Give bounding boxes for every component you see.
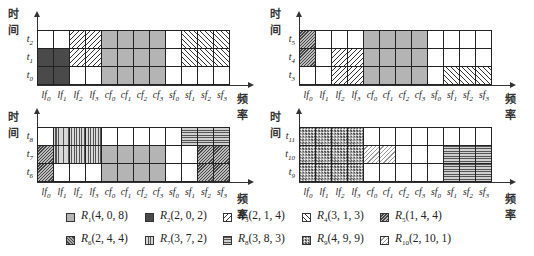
grid-cell-r1 — [396, 31, 412, 49]
x-axis-line — [37, 182, 249, 183]
grid-cell-white — [444, 31, 460, 49]
legend-swatch-icon — [145, 236, 154, 245]
grid-cell-white — [38, 128, 54, 146]
grid-cell-r8 — [444, 146, 460, 164]
grid-cell-white — [460, 49, 476, 67]
label-subscript: 2 — [79, 192, 83, 200]
label-subscript: 0 — [112, 95, 116, 103]
grid-cell-white — [316, 31, 332, 49]
grid-cell-r4 — [182, 49, 198, 67]
label-subscript: 1 — [30, 57, 34, 65]
frequency-label: lf0 — [300, 187, 316, 200]
label-subscript: 2 — [469, 192, 473, 200]
label-subscript: 0 — [30, 75, 34, 83]
grid-cell-white — [150, 128, 166, 146]
frequency-label: sf0 — [428, 187, 444, 200]
label-subscript: 1 — [325, 95, 329, 103]
grid-cell-white — [380, 164, 396, 182]
grid-cell-r1 — [380, 67, 396, 85]
label-subscript: 3 — [160, 192, 164, 200]
grid-cell-r3 — [86, 49, 102, 67]
grid-cell-r1 — [102, 31, 118, 49]
grid-cell-white — [38, 31, 54, 49]
label-subscript: 0 — [175, 192, 179, 200]
time-slot-label: t7 — [19, 145, 33, 163]
label-subscript: 0 — [47, 192, 51, 200]
label-base: cf — [153, 187, 160, 197]
grid-cell-r9 — [348, 128, 364, 146]
legend-item-r10: R10(2, 10, 1) — [380, 232, 451, 248]
label-subscript: 0 — [437, 192, 441, 200]
frequency-label: cf1 — [380, 90, 396, 103]
label-subscript: 3 — [485, 192, 489, 200]
grid-cell-white — [166, 67, 182, 85]
legend-name: R — [238, 232, 245, 244]
label-base: cf — [153, 90, 160, 100]
grid-cell-r1 — [364, 67, 380, 85]
grid-cell-r5 — [300, 49, 316, 67]
grid-cell-r4 — [198, 49, 214, 67]
legend-item-r6: R6(2, 4, 4) — [66, 232, 128, 248]
time-slot-label: t4 — [281, 48, 295, 66]
grid-cell-r8 — [476, 164, 492, 182]
grid-cell-r9 — [316, 128, 332, 146]
grid-cell-white — [102, 128, 118, 146]
label-subscript: 2 — [207, 95, 211, 103]
y-axis-label: 时间 — [8, 108, 19, 140]
grid-cell-r2 — [54, 49, 70, 67]
label-subscript: 3 — [422, 192, 426, 200]
label-subscript: 3 — [95, 95, 99, 103]
legend-name: R — [317, 209, 324, 221]
legend-params: (3, 1, 3) — [328, 209, 364, 221]
frequency-label: lf0 — [300, 90, 316, 103]
legend-item-r3: R3(2, 1, 4) — [223, 209, 285, 225]
legend-swatch-icon — [66, 213, 75, 222]
grid-cell-white — [364, 164, 380, 182]
grid-cell-r1 — [412, 31, 428, 49]
legend-text: R10(2, 10, 1) — [395, 232, 451, 247]
legend-params: (2, 10, 1) — [409, 232, 451, 244]
legend-item-r2: R2(2, 0, 2) — [145, 209, 207, 225]
grid-cell-white — [396, 128, 412, 146]
grid-cell-white — [166, 31, 182, 49]
legend-swatch-icon — [302, 213, 311, 222]
x-axis-line — [299, 182, 511, 183]
label-base: cf — [399, 187, 406, 197]
legend-name: R — [81, 232, 88, 244]
grid-cell-r1 — [118, 164, 134, 182]
label-base: cf — [415, 187, 422, 197]
label-subscript: 11 — [289, 136, 295, 144]
frequency-label: sf2 — [460, 90, 476, 103]
label-subscript: 8 — [30, 136, 34, 144]
legend-name: R — [160, 209, 167, 221]
label-base: cf — [367, 187, 374, 197]
grid-cell-r1 — [134, 67, 150, 85]
frequency-label: lf1 — [316, 90, 332, 103]
grid-cell-white — [182, 67, 198, 85]
frequency-label: lf3 — [348, 187, 364, 200]
frequency-label: cf2 — [134, 187, 150, 200]
label-subscript: 10 — [288, 154, 295, 162]
label-subscript: 5 — [292, 39, 296, 47]
legend-swatch-icon — [380, 236, 389, 245]
grid-cell-r1 — [118, 49, 134, 67]
time-slot-labels: t8t7t6 — [19, 127, 33, 181]
frequency-labels: lf0lf1lf2lf3cf0cf1cf2cf3sf0sf1sf2sf3 — [300, 187, 492, 200]
x-axis-label: 频率 — [505, 90, 516, 122]
legend-text: R2(2, 0, 2) — [160, 209, 207, 224]
time-slot-label: t8 — [19, 127, 33, 145]
frequency-label: sf2 — [198, 90, 214, 103]
legend-text: R4(3, 1, 3) — [317, 209, 364, 224]
label-subscript: 9 — [292, 172, 296, 180]
legend-text: R5(1, 4, 4) — [395, 209, 442, 224]
grid-cell-r3 — [348, 67, 364, 85]
grid-cell-r9 — [300, 164, 316, 182]
legend-name: R — [395, 232, 402, 244]
grid-cell-r1 — [134, 146, 150, 164]
grid-cell-white — [396, 164, 412, 182]
grid-cell-white — [166, 164, 182, 182]
grid-cell-r4 — [214, 49, 230, 67]
grid-cell-r1 — [412, 49, 428, 67]
grid-cell-r1 — [150, 49, 166, 67]
frequency-label: lf0 — [38, 187, 54, 200]
